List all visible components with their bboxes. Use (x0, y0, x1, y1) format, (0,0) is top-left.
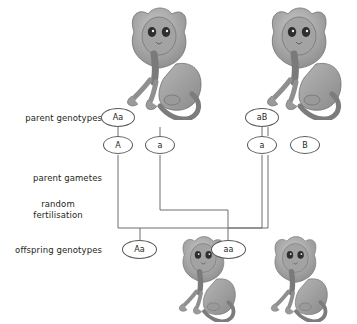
row-label-parent-genotypes: parent genotypes (14, 113, 102, 123)
random-fertilisation-line-1: random (41, 199, 75, 209)
gamete-oval-right-parent-a: a (247, 136, 277, 154)
connector-gamete-a-right-to-offspring-Aa (140, 155, 262, 228)
offspring-genotype-oval-right: aa (211, 240, 246, 259)
parent-genotype-oval-left: Aa (101, 108, 135, 127)
row-label-random-fertilisation: random fertilisation (14, 199, 102, 221)
genetics-cross-diagram: parent genotypes parent gametes random f… (0, 0, 357, 324)
parent-monkey-right (244, 2, 348, 120)
gamete-oval-left-parent-A: A (103, 136, 133, 154)
row-label-parent-gametes: parent gametes (14, 173, 102, 183)
row-label-offspring-genotypes: offspring genotypes (4, 245, 102, 255)
connector-gamete-a-right-to-offspring-aa (228, 155, 268, 228)
parent-monkey-left (104, 2, 208, 120)
connector-gamete-a-left-to-offspring-aa (160, 155, 228, 240)
offspring-monkey-right (250, 232, 336, 322)
gamete-oval-right-parent-B: B (290, 136, 320, 154)
offspring-genotype-oval-left: Aa (122, 240, 157, 259)
gamete-oval-left-parent-a: a (145, 136, 175, 154)
parent-genotype-oval-right: aB (245, 108, 279, 127)
connector-gamete-A-to-offspring-Aa (118, 155, 140, 240)
random-fertilisation-line-2: fertilisation (33, 210, 82, 220)
